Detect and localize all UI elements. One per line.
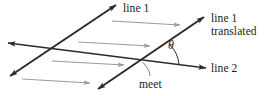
translation-arrow <box>52 61 124 65</box>
label-line-1-translated: line 1translated <box>211 12 257 37</box>
label-line-1-translated-row1: line 1 <box>211 12 237 24</box>
figure-container: line 1 line 1translated line 2 meet θ <box>0 0 265 96</box>
translation-arrow <box>78 42 150 46</box>
label-line-1: line 1 <box>123 2 149 15</box>
line1-segment <box>10 5 116 76</box>
label-meet: meet <box>139 78 162 91</box>
translation-arrow <box>112 21 180 25</box>
meet-leader-line <box>143 62 150 76</box>
label-line-2: line 2 <box>211 62 237 75</box>
translation-arrow <box>22 79 90 83</box>
label-angle-theta: θ <box>168 39 174 52</box>
label-line-1-translated-row2: translated <box>211 25 257 37</box>
